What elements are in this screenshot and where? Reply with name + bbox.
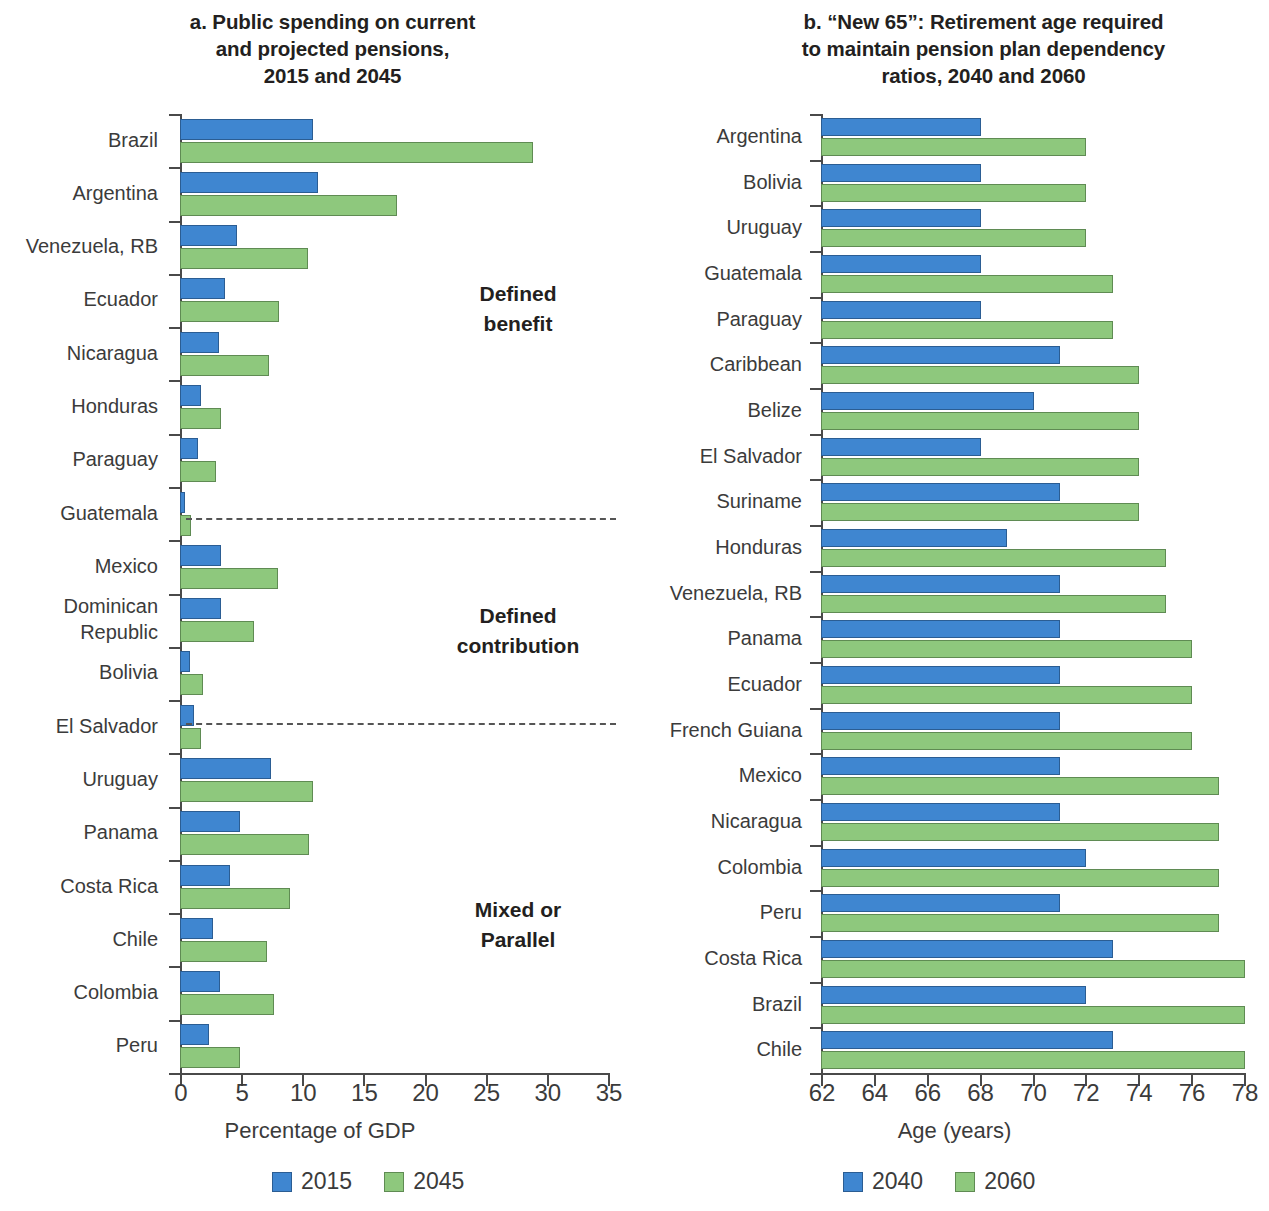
x-axis-tick-label: 15 xyxy=(329,1079,399,1107)
y-axis-tick xyxy=(169,167,180,169)
y-axis-tick xyxy=(810,388,821,390)
category-label: Panama xyxy=(640,626,802,650)
category-label: Nicaragua xyxy=(0,341,158,365)
y-axis-tick xyxy=(810,616,821,618)
bar-2015 xyxy=(180,545,221,566)
y-axis-tick xyxy=(810,434,821,436)
y-axis-tick xyxy=(810,479,821,481)
bar-2040 xyxy=(821,1031,1113,1049)
y-axis-tick xyxy=(169,540,180,542)
category-label: Argentina xyxy=(640,124,802,148)
bar-2060 xyxy=(821,869,1219,887)
category-label: Paraguay xyxy=(640,307,802,331)
bar-2045 xyxy=(180,408,221,429)
y-axis-tick xyxy=(810,982,821,984)
bar-2040 xyxy=(821,301,981,319)
y-axis-tick xyxy=(810,251,821,253)
group-note-line: Defined xyxy=(408,279,628,309)
y-axis-tick xyxy=(169,860,180,862)
y-axis-tick xyxy=(169,221,180,223)
bar-2015 xyxy=(180,865,230,886)
bar-2015 xyxy=(180,758,271,779)
category-label: Colombia xyxy=(640,855,802,879)
bar-2015 xyxy=(180,278,225,299)
category-label: Bolivia xyxy=(640,170,802,194)
bar-2060 xyxy=(821,823,1219,841)
bar-2040 xyxy=(821,346,1060,364)
y-axis-tick xyxy=(169,700,180,702)
panel-b: b. “New 65”: Retirement age required to … xyxy=(640,0,1269,1211)
bar-2040 xyxy=(821,849,1086,867)
figure-root: a. Public spending on current and projec… xyxy=(0,0,1269,1211)
legend-swatch-2015 xyxy=(272,1172,292,1192)
bar-2040 xyxy=(821,575,1060,593)
bar-2060 xyxy=(821,229,1086,247)
bar-2060 xyxy=(821,366,1139,384)
y-axis-tick xyxy=(810,662,821,664)
category-label: Honduras xyxy=(640,535,802,559)
bar-2045 xyxy=(180,355,269,376)
category-label: DominicanRepublic xyxy=(0,593,158,645)
bar-2015 xyxy=(180,438,198,459)
category-label: Venezuela, RB xyxy=(640,581,802,605)
bar-2040 xyxy=(821,712,1060,730)
x-axis-tick-label: 30 xyxy=(513,1079,583,1107)
y-axis-tick xyxy=(810,1073,821,1075)
bar-2040 xyxy=(821,666,1060,684)
bar-2060 xyxy=(821,503,1139,521)
bar-2060 xyxy=(821,321,1113,339)
category-label: Caribbean xyxy=(640,352,802,376)
panel-a-xaxis-title: Percentage of GDP xyxy=(0,1118,640,1144)
category-label: Suriname xyxy=(640,489,802,513)
bar-2015 xyxy=(180,119,313,140)
bar-2060 xyxy=(821,595,1166,613)
panel-a-legend: 2015 2045 xyxy=(272,1168,464,1195)
bar-2040 xyxy=(821,118,981,136)
bar-2045 xyxy=(180,994,274,1015)
bar-2060 xyxy=(821,914,1219,932)
bar-2060 xyxy=(821,732,1192,750)
panel-b-legend: 2040 2060 xyxy=(843,1168,1035,1195)
bar-2060 xyxy=(821,275,1113,293)
legend-label-2015: 2015 xyxy=(301,1168,352,1195)
bar-2015 xyxy=(180,598,221,619)
bar-2040 xyxy=(821,803,1060,821)
bar-2015 xyxy=(180,332,219,353)
group-divider-2 xyxy=(186,723,616,725)
group-note-line: Defined xyxy=(408,601,628,631)
y-axis-tick xyxy=(169,380,180,382)
panel-a: a. Public spending on current and projec… xyxy=(0,0,640,1211)
category-label: Paraguay xyxy=(0,447,158,471)
y-axis-tick xyxy=(810,1027,821,1029)
bar-2045 xyxy=(180,568,278,589)
bar-2040 xyxy=(821,529,1007,547)
bar-2040 xyxy=(821,392,1034,410)
bar-2045 xyxy=(180,728,201,749)
y-axis-tick xyxy=(810,571,821,573)
legend-swatch-2045 xyxy=(384,1172,404,1192)
category-label: Belize xyxy=(640,398,802,422)
category-label: Venezuela, RB xyxy=(0,234,158,258)
bar-2060 xyxy=(821,549,1166,567)
bar-2045 xyxy=(180,461,216,482)
category-label: Mexico xyxy=(0,554,158,578)
group-note-mixed-parallel: Mixed or Parallel xyxy=(408,895,628,955)
bar-2015 xyxy=(180,1024,209,1045)
bar-2040 xyxy=(821,894,1060,912)
bar-2015 xyxy=(180,971,220,992)
y-axis-tick xyxy=(169,753,180,755)
y-axis-tick xyxy=(169,966,180,968)
y-axis-tick xyxy=(169,913,180,915)
bar-2045 xyxy=(180,834,309,855)
x-axis-tick-label: 20 xyxy=(391,1079,461,1107)
category-label: Panama xyxy=(0,820,158,844)
y-axis-tick xyxy=(810,936,821,938)
bar-2060 xyxy=(821,184,1086,202)
category-label: French Guiana xyxy=(640,718,802,742)
category-label: Ecuador xyxy=(640,672,802,696)
group-note-line: contribution xyxy=(408,631,628,661)
y-axis-tick xyxy=(810,205,821,207)
bar-2060 xyxy=(821,458,1139,476)
bar-2060 xyxy=(821,777,1219,795)
y-axis-tick xyxy=(169,327,180,329)
